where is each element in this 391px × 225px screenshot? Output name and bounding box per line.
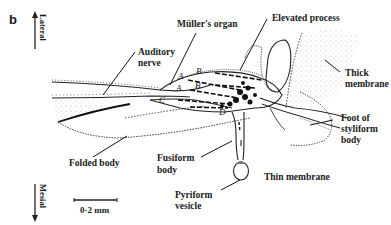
label-pyriform-vesicle-line1: Pyriform bbox=[175, 190, 212, 200]
fusiform-body bbox=[232, 112, 244, 160]
folded-body-wedge bbox=[52, 100, 110, 122]
group-letter-c: C bbox=[159, 95, 165, 105]
scale-bar-label: 0·2 mm bbox=[80, 205, 109, 215]
mesial-label: Mesial bbox=[38, 184, 48, 208]
diagram-figure: b Lateral Mesial 0·2 mm Müller's organ E… bbox=[0, 0, 391, 225]
pyriform-vesicle bbox=[234, 162, 249, 180]
label-thick-membrane-line1: Thick bbox=[345, 68, 369, 78]
label-thick-membrane-line2: membrane bbox=[345, 79, 389, 89]
label-elevated-process: Elevated process bbox=[272, 13, 340, 23]
label-folded-body: Folded body bbox=[69, 158, 119, 168]
muller-organ-outline bbox=[150, 72, 282, 112]
folded-body bbox=[58, 118, 250, 138]
group-letter-b-lower: B bbox=[195, 80, 201, 90]
label-fusiform-body-line2: body bbox=[157, 165, 177, 175]
label-auditory-nerve-line2: nerve bbox=[138, 58, 161, 68]
auditory-nerve bbox=[52, 82, 210, 91]
lateral-label: Lateral bbox=[38, 14, 48, 41]
label-thin-membrane: Thin membrane bbox=[264, 172, 330, 182]
group-letter-b-upper: B bbox=[196, 66, 202, 76]
group-letter-d: D bbox=[219, 107, 226, 117]
group-letter-a-upper: A bbox=[178, 71, 184, 81]
label-foot-line1: Foot of bbox=[341, 113, 370, 123]
label-fusiform-body-line1: Fusiform bbox=[157, 153, 194, 163]
label-foot-line3: body bbox=[341, 135, 361, 145]
label-auditory-nerve-line1: Auditory bbox=[138, 47, 175, 57]
label-foot-line2: styliform bbox=[341, 124, 378, 134]
scale-bar bbox=[74, 198, 117, 202]
elevated-process-outline bbox=[266, 40, 291, 92]
panel-label: b bbox=[9, 12, 17, 27]
label-muller-organ: Müller's organ bbox=[177, 19, 237, 29]
group-letter-a-lower: A bbox=[176, 83, 182, 93]
label-pyriform-vesicle-line2: vesicle bbox=[175, 201, 201, 211]
